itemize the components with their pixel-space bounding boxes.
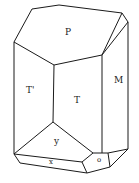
face-label-y: y bbox=[54, 137, 59, 146]
face-label-x: x bbox=[49, 159, 53, 166]
face-label-M: M bbox=[114, 76, 123, 85]
crystal-diagram: P T' T M y x o bbox=[0, 0, 139, 183]
face-label-T: T bbox=[74, 96, 80, 105]
face-label-T-prime: T' bbox=[26, 86, 34, 95]
face-label-o: o bbox=[97, 157, 101, 164]
face-label-P: P bbox=[65, 28, 71, 37]
